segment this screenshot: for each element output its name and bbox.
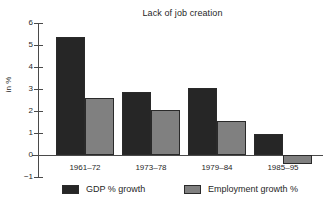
y-axis-label: in % (4, 65, 13, 105)
bar-employment-1973-78 (151, 110, 180, 155)
y-tick-label-2: 2 (29, 105, 33, 116)
y-tick-label-3: 3 (29, 83, 33, 94)
bar-employment-1979-84 (217, 121, 246, 155)
bar-gdp-1961-72 (56, 37, 85, 155)
legend-item-employment: Employment growth % (184, 184, 298, 194)
bar-chart: Lack of job creation in % 6 5 4 3 2 1 (0, 0, 329, 204)
y-tick-label-1: 1 (29, 127, 33, 138)
x-tick-label-4: 1985–95 (254, 163, 312, 172)
bar-employment-1961-72 (85, 98, 114, 155)
x-tick-label-2: 1973–78 (122, 163, 180, 172)
plot-area: 6 5 4 3 2 1 0 −1 (38, 23, 323, 178)
y-tick-label-5: 5 (29, 39, 33, 50)
legend-label-gdp: GDP % growth (86, 184, 145, 194)
legend-swatch-employment (184, 185, 201, 194)
y-tick-label-0: 0 (29, 149, 33, 160)
legend-item-gdp: GDP % growth (62, 184, 145, 194)
legend-label-employment: Employment growth % (208, 184, 298, 194)
bar-gdp-1979-84 (188, 88, 217, 155)
y-tick-label-4: 4 (29, 61, 33, 72)
x-tick-label-3: 1979–84 (188, 163, 246, 172)
x-axis-zero-line (32, 155, 323, 156)
y-tick-label-6: 6 (29, 17, 33, 28)
chart-legend: GDP % growth Employment growth % (0, 184, 329, 200)
bar-gdp-1985-95 (254, 134, 283, 155)
x-tick-label-1: 1961–72 (56, 163, 114, 172)
y-tick-label-minus-1: −1 (24, 171, 33, 182)
legend-swatch-gdp (62, 185, 79, 194)
chart-title: Lack of job creation (0, 8, 329, 18)
bar-gdp-1973-78 (122, 92, 151, 155)
